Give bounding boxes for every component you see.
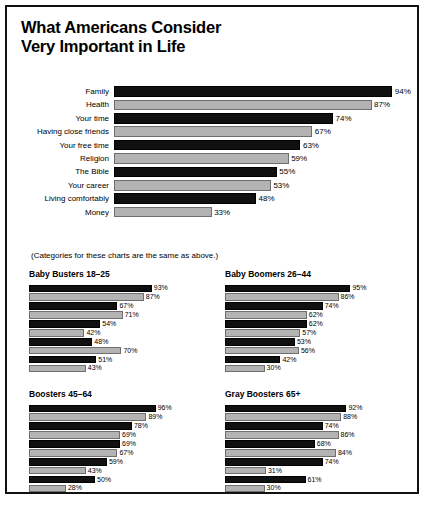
value-bar: [225, 365, 265, 373]
value-bar: [225, 413, 341, 421]
value-bar: [29, 347, 121, 355]
bar-track: 87%: [114, 98, 405, 111]
value-bar: [225, 356, 280, 364]
chart-row: 68%: [225, 440, 405, 449]
chart-row: 54%: [29, 320, 209, 329]
chart-row: 50%: [29, 475, 209, 484]
value-bar: [29, 293, 144, 301]
value-bar: [225, 329, 300, 337]
value-bar: [29, 476, 95, 484]
chart-row: 28%: [29, 484, 209, 493]
value-label: 86%: [339, 292, 355, 302]
value-bar: [29, 302, 117, 310]
bar-track: 53%: [114, 179, 405, 192]
value-bar: [114, 153, 289, 164]
value-bar: [114, 113, 333, 124]
panel-bars: 96%89%78%69%69%67%59%43%50%28%: [29, 404, 209, 493]
chart-row: Money33%: [21, 206, 405, 219]
chart-row: 42%: [29, 328, 209, 337]
categories-note: (Categories for these charts are the sam…: [31, 251, 218, 260]
value-bar: [114, 100, 372, 111]
value-label: 88%: [341, 412, 357, 422]
value-bar: [114, 167, 277, 178]
chart-row: 93%: [29, 284, 209, 293]
value-bar: [225, 293, 339, 301]
value-label: 55%: [277, 165, 296, 178]
chart-row: 78%: [29, 422, 209, 431]
value-label: 50%: [95, 475, 111, 485]
chart-row: 53%: [225, 337, 405, 346]
chart-row: 30%: [225, 484, 405, 493]
chart-row: 96%: [29, 404, 209, 413]
panel-baby-busters: Baby Busters 18–25 93%87%67%71%54%42%48%…: [29, 269, 209, 373]
chart-row: Your time74%: [21, 112, 405, 125]
value-label: 67%: [312, 125, 331, 138]
value-label: 59%: [289, 152, 308, 165]
value-bar: [29, 449, 117, 457]
chart-row: 69%: [29, 431, 209, 440]
chart-row: 51%: [29, 355, 209, 364]
value-bar: [225, 458, 323, 466]
value-bar: [29, 458, 107, 466]
bar-track: 63%: [114, 139, 405, 152]
panel-boosters: Boosters 45–64 96%89%78%69%69%67%59%43%5…: [29, 389, 209, 493]
chart-row: 86%: [225, 293, 405, 302]
value-bar: [225, 422, 323, 430]
value-bar: [225, 467, 266, 475]
value-bar: [29, 338, 92, 346]
title-line-2: Very Important in Life: [21, 37, 417, 56]
value-bar: [29, 320, 100, 328]
value-label: 71%: [123, 310, 139, 320]
value-label: 70%: [121, 346, 137, 356]
value-bar: [114, 86, 392, 97]
value-bar: [29, 431, 120, 439]
value-label: 31%: [266, 466, 282, 476]
value-bar: [29, 356, 96, 364]
panel-title: Gray Boosters 65+: [225, 389, 405, 399]
panel-title: Baby Busters 18–25: [29, 269, 209, 279]
value-label: 61%: [306, 475, 322, 485]
category-label: Having close friends: [21, 125, 114, 138]
bar-track: 59%: [114, 152, 405, 165]
value-label: 53%: [271, 179, 290, 192]
category-label: The Bible: [21, 165, 114, 178]
value-bar: [225, 347, 299, 355]
chart-row: Family94%: [21, 85, 405, 98]
bar-track: 67%: [114, 125, 405, 138]
value-bar: [29, 311, 123, 319]
category-label: Your time: [21, 112, 114, 125]
value-label: 74%: [323, 421, 339, 431]
panel-bars: 93%87%67%71%54%42%48%70%51%43%: [29, 284, 209, 373]
chart-row: 67%: [29, 302, 209, 311]
chart-row: 48%: [29, 337, 209, 346]
value-label: 74%: [323, 457, 339, 467]
value-bar: [225, 476, 306, 484]
value-bar: [29, 467, 86, 475]
value-bar: [29, 405, 156, 413]
value-label: 59%: [107, 457, 123, 467]
bar-track: 48%: [114, 192, 405, 205]
chart-row: Having close friends67%: [21, 125, 405, 138]
value-bar: [225, 320, 307, 328]
chart-row: 92%: [225, 404, 405, 413]
bar-track: 94%: [114, 85, 405, 98]
value-bar: [225, 405, 346, 413]
value-bar: [114, 140, 300, 151]
value-label: 30%: [265, 363, 281, 373]
value-label: 48%: [92, 337, 108, 347]
value-bar: [225, 311, 307, 319]
infographic-poster: What Americans Consider Very Important i…: [5, 5, 419, 494]
chart-row: 88%: [225, 413, 405, 422]
category-label: Religion: [21, 152, 114, 165]
category-label: Living comfortably: [21, 192, 114, 205]
chart-row: 74%: [225, 457, 405, 466]
value-label: 87%: [372, 98, 391, 111]
value-label: 74%: [333, 112, 352, 125]
value-label: 33%: [212, 206, 231, 219]
value-label: 28%: [66, 483, 82, 493]
value-bar: [114, 180, 271, 191]
value-label: 63%: [300, 139, 319, 152]
value-bar: [114, 126, 312, 137]
chart-row: Health87%: [21, 98, 405, 111]
value-bar: [114, 193, 256, 204]
